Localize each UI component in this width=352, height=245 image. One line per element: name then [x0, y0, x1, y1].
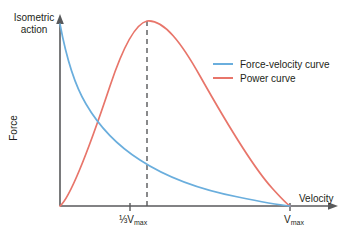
- figure-container: Isometric action Force Velocity ⅓Vmax Vm…: [0, 0, 352, 245]
- x-axis-label: Velocity: [299, 193, 333, 205]
- legend-label-power: Power curve: [240, 73, 296, 84]
- chart-plot-area: [0, 0, 352, 245]
- legend-swatch-force-velocity: [213, 63, 233, 65]
- legend-item-force-velocity: Force-velocity curve: [213, 57, 329, 71]
- isometric-action-annotation: Isometric action: [5, 12, 63, 36]
- vmax-subscript: max: [291, 219, 304, 226]
- vmax-variable: V: [127, 214, 134, 225]
- legend-item-power: Power curve: [213, 71, 329, 85]
- x-tick-label-vmax: Vmax: [284, 214, 304, 227]
- force-velocity-curve-line: [60, 24, 290, 206]
- y-axis: [56, 14, 64, 206]
- x-tick-label-third-vmax: ⅓Vmax: [119, 214, 147, 227]
- legend-label-force-velocity: Force-velocity curve: [240, 59, 329, 70]
- x-axis: [60, 202, 338, 210]
- vmax-subscript: max: [134, 219, 147, 226]
- legend-swatch-power: [213, 77, 233, 79]
- chart-legend: Force-velocity curve Power curve: [213, 57, 329, 85]
- vmax-variable: V: [284, 214, 291, 225]
- y-axis-label: Force: [8, 103, 20, 153]
